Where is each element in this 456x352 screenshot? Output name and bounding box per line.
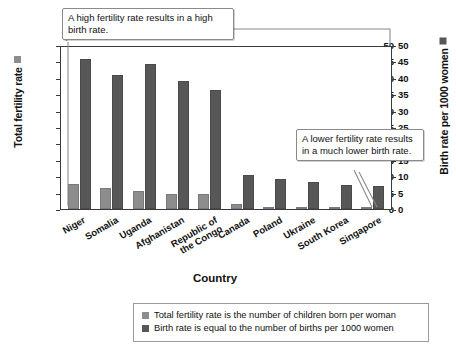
bar-birth-rate: [80, 59, 91, 209]
y-axis-right-tick-label: 40: [398, 73, 414, 84]
bar-fertility: [198, 194, 209, 209]
legend-item-label: Birth rate is equal to the number of bir…: [154, 322, 394, 335]
bar-birth-rate: [308, 182, 319, 209]
bar-group: [100, 47, 123, 209]
bar-group: [329, 47, 352, 209]
bar-birth-rate: [145, 64, 156, 209]
y-axis-right-tick-label: 35: [398, 89, 414, 100]
bar-birth-rate: [243, 175, 254, 209]
bar-birth-rate: [341, 185, 352, 209]
bar-fertility: [263, 207, 274, 209]
y-axis-right-tick-mark: [392, 112, 396, 113]
y-axis-right-tick-mark: [392, 95, 396, 96]
bar-birth-rate: [373, 186, 384, 209]
y-axis-right-tick-label: 30: [398, 106, 414, 117]
bar-birth-rate: [112, 75, 123, 209]
bar-fertility: [100, 188, 111, 209]
y-axis-left-title: Total fertility rate: [12, 27, 24, 177]
bar-fertility: [68, 184, 79, 209]
bar-group: [263, 47, 286, 209]
legend-item: Total fertility rate is the number of ch…: [142, 309, 420, 322]
y-axis-left-title-text: Total fertility rate: [12, 67, 24, 147]
bar-birth-rate: [178, 81, 189, 209]
bar-fertility: [329, 207, 340, 209]
bar-groups: [61, 47, 391, 209]
bar-fertility: [231, 204, 242, 209]
bar-birth-rate: [275, 179, 286, 209]
y-axis-right-tick-mark: [392, 210, 396, 211]
bar-group: [133, 47, 156, 209]
y-axis-right-tick-label: 0: [398, 204, 414, 215]
bar-group: [166, 47, 189, 209]
plot-area: [60, 46, 392, 210]
bar-fertility: [361, 207, 372, 209]
y-axis-right-tick-label: 5: [398, 188, 414, 199]
legend-birth-swatch-icon: [142, 325, 149, 332]
y-axis-right-tick-mark: [392, 79, 396, 80]
y-axis-right-title: Birth rate per 1000 women: [438, 29, 450, 184]
y-axis-left-tick-mark: [56, 210, 60, 211]
y-axis-right-tick-label: 10: [398, 171, 414, 182]
bar-group: [68, 47, 91, 209]
bar-fertility: [166, 194, 177, 209]
bar-fertility: [133, 191, 144, 209]
fertility-birth-rate-chart: Total fertility rate Birth rate per 1000…: [0, 0, 456, 352]
y-axis-right-tick-mark: [392, 46, 396, 47]
callout-low-fertility: A lower fertility rate results in a much…: [296, 129, 424, 161]
bar-fertility: [296, 207, 307, 209]
y-axis-right-title-text: Birth rate per 1000 women: [438, 48, 450, 174]
y-axis-right-tick-mark: [392, 194, 396, 195]
bar-group: [231, 47, 254, 209]
legend-item-label: Total fertility rate is the number of ch…: [154, 309, 396, 322]
birth-swatch-icon: [440, 37, 447, 44]
y-axis-right-tick-mark: [392, 62, 396, 63]
bar-group: [296, 47, 319, 209]
legend-item: Birth rate is equal to the number of bir…: [142, 322, 420, 335]
legend-fertility-swatch-icon: [142, 312, 149, 319]
fertility-swatch-icon: [14, 56, 21, 63]
bar-birth-rate: [210, 90, 221, 209]
y-axis-right-tick-label: 50: [398, 40, 414, 51]
callout-high-fertility: A high fertility rate results in a high …: [62, 8, 234, 40]
y-axis-right-tick-mark: [392, 177, 396, 178]
bar-group: [198, 47, 221, 209]
y-axis-right-tick-label: 45: [398, 56, 414, 67]
chart-legend: Total fertility rate is the number of ch…: [133, 303, 429, 342]
bar-group: [361, 47, 384, 209]
x-axis-title: Country: [150, 272, 280, 284]
